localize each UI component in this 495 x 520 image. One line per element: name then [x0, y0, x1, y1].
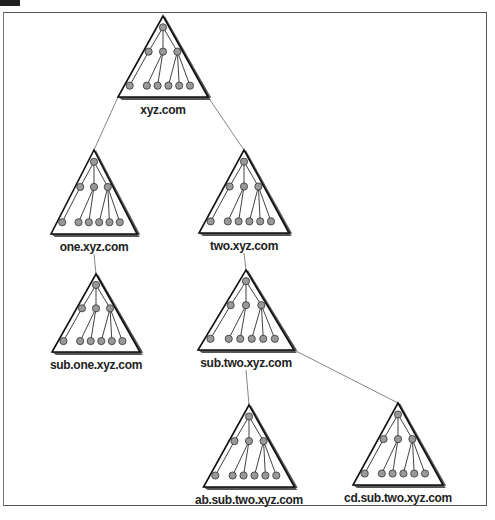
root-node-icon — [240, 158, 247, 165]
tree-node-icon — [119, 337, 126, 344]
tree-node-icon — [240, 183, 247, 190]
tree-node-icon — [361, 470, 368, 477]
zone-label: xyz.com — [140, 103, 185, 117]
tree-node-icon — [145, 48, 152, 55]
root-node-icon — [394, 411, 401, 418]
tree-node-icon — [106, 219, 113, 226]
tree-node-icon — [237, 335, 244, 342]
tree-node-icon — [143, 82, 150, 89]
zone-subone: sub.one.xyz.com — [50, 274, 143, 372]
tree-node-icon — [174, 48, 181, 55]
tree-node-icon — [98, 337, 105, 344]
tree-node-icon — [262, 472, 269, 479]
edge-xyz-to-two — [208, 97, 244, 150]
edge-two-to-subtwo — [244, 253, 246, 270]
tree-node-icon — [207, 335, 214, 342]
root-node-icon — [90, 158, 97, 165]
tree-node-icon — [248, 335, 255, 342]
tree-node-icon — [267, 218, 274, 225]
tree-node-icon — [380, 435, 387, 442]
tree-node-icon — [411, 470, 418, 477]
tree-node-icon — [378, 470, 385, 477]
root-node-icon — [245, 413, 252, 420]
tree-node-icon — [400, 470, 407, 477]
tree-node-icon — [257, 218, 264, 225]
zone-one: one.xyz.com — [51, 150, 140, 254]
tree-node-icon — [258, 302, 265, 309]
zone-cdsub: cd.sub.two.xyz.com — [344, 403, 452, 505]
tree-node-icon — [77, 337, 84, 344]
tree-node-icon — [186, 82, 193, 89]
tree-node-icon — [246, 218, 253, 225]
tree-node-icon — [251, 472, 258, 479]
zone-absub: ab.sub.two.xyz.com — [195, 405, 303, 507]
root-node-icon — [159, 24, 166, 31]
tree-node-icon — [409, 435, 416, 442]
tree-node-icon — [85, 219, 92, 226]
tree-node-icon — [231, 437, 238, 444]
tree-node-icon — [394, 435, 401, 442]
tree-node-icon — [227, 302, 234, 309]
tree-node-icon — [260, 335, 267, 342]
root-node-icon — [242, 278, 249, 285]
tree-node-icon — [126, 82, 133, 89]
tree-node-icon — [271, 335, 278, 342]
tree-node-icon — [87, 337, 94, 344]
tree-node-icon — [421, 470, 428, 477]
tree-node-icon — [240, 472, 247, 479]
edge-xyz-to-one — [94, 97, 118, 150]
tree-node-icon — [226, 183, 233, 190]
tree-node-icon — [224, 218, 231, 225]
tree-node-icon — [389, 470, 396, 477]
tree-node-icon — [96, 219, 103, 226]
tree-node-icon — [229, 472, 236, 479]
zone-label: cd.sub.two.xyz.com — [344, 491, 452, 505]
zone-label: ab.sub.two.xyz.com — [195, 493, 303, 507]
tree-node-icon — [245, 437, 252, 444]
edge-subtwo-to-absub — [246, 370, 249, 405]
tree-node-icon — [78, 305, 85, 312]
tree-node-icon — [273, 472, 280, 479]
tree-node-icon — [165, 82, 172, 89]
tree-node-icon — [59, 219, 66, 226]
tree-node-icon — [106, 305, 113, 312]
tree-node-icon — [260, 437, 267, 444]
root-node-icon — [92, 281, 99, 288]
tree-node-icon — [60, 337, 67, 344]
tree-node-icon — [75, 219, 82, 226]
zone-two: two.xyz.com — [199, 150, 292, 253]
zone-subtwo: sub.two.xyz.com — [198, 270, 297, 370]
tree-node-icon — [116, 219, 123, 226]
tree-node-icon — [242, 302, 249, 309]
tree-node-icon — [235, 218, 242, 225]
tree-node-icon — [207, 218, 214, 225]
tree-node-icon — [159, 48, 166, 55]
edge-subtwo-to-cdsub — [294, 350, 398, 403]
domain-tree-diagram: xyz.comone.xyz.comtwo.xyz.comsub.one.xyz… — [0, 0, 495, 520]
tree-node-icon — [212, 472, 219, 479]
tree-node-icon — [255, 183, 262, 190]
tree-node-icon — [92, 305, 99, 312]
tree-node-icon — [108, 337, 115, 344]
zone-label: two.xyz.com — [210, 239, 278, 253]
edge-one-to-subone — [94, 254, 96, 274]
tree-node-icon — [225, 335, 232, 342]
zone-label: sub.two.xyz.com — [200, 356, 292, 370]
tree-node-icon — [154, 82, 161, 89]
zone-label: sub.one.xyz.com — [50, 358, 142, 372]
zone-xyz: xyz.com — [118, 16, 211, 117]
tree-node-icon — [104, 183, 111, 190]
zone-label: one.xyz.com — [60, 240, 129, 254]
tree-node-icon — [176, 82, 183, 89]
tree-node-icon — [77, 183, 84, 190]
tree-node-icon — [90, 183, 97, 190]
